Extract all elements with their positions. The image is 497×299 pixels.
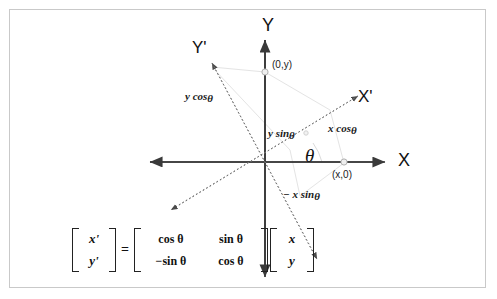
- label-y-cos-theta-text: y cos: [185, 90, 207, 102]
- lhs-y-prime: y': [79, 253, 109, 269]
- figure-page: Y X Y' X' (0,y) (x,0) θ y cosθ y sinθ x …: [0, 0, 497, 299]
- theta-arc: [313, 143, 322, 162]
- lhs-bracket-left: [72, 228, 79, 272]
- construction-line-top: [265, 72, 330, 110]
- rhs-row-2: y: [277, 250, 307, 272]
- rhs-x: x: [277, 231, 307, 247]
- rhs-bracket-right: [307, 228, 314, 272]
- matrix-cell-r1c2: sin θ: [201, 232, 261, 247]
- x-prime-axis-label: X': [358, 88, 373, 105]
- marker-point-0y: [262, 69, 268, 75]
- matrix-cell-r2c2: cos θ: [201, 254, 261, 269]
- label-y-cos-theta: y cosθ: [185, 91, 213, 102]
- theta-angle-label: θ: [305, 146, 314, 165]
- rhs-y: y: [277, 253, 307, 269]
- label-neg-x-sin-theta-symbol: θ: [314, 190, 320, 202]
- construction-line-right: [330, 110, 344, 163]
- matrix-bracket-left: [134, 228, 141, 272]
- marker-projection-xcos: [304, 131, 308, 135]
- matrix-cell-r2c1: −sin θ: [141, 254, 201, 269]
- label-y-cos-theta-symbol: θ: [207, 92, 213, 104]
- label-neg-x-sin-theta-text: − x sin: [283, 188, 314, 200]
- label-neg-x-sin-theta: − x sinθ: [283, 189, 320, 200]
- label-x-cos-theta-symbol: θ: [351, 124, 357, 136]
- lhs-x-prime: x': [79, 231, 109, 247]
- rhs-vector: x y: [277, 228, 307, 272]
- marker-point-x0: [341, 159, 347, 165]
- y-axis-label: Y: [262, 16, 274, 34]
- point-label-0y: (0,y): [272, 60, 292, 70]
- label-y-sin-theta-text: y sin: [268, 127, 289, 139]
- rhs-bracket-left: [270, 228, 277, 272]
- label-y-sin-theta-symbol: θ: [289, 129, 295, 141]
- lhs-bracket-right: [109, 228, 116, 272]
- rotation-matrix-equation: x' y' = cos θ sin θ −sin θ cos θ x: [72, 228, 314, 272]
- matrix-cell-r1c1: cos θ: [141, 232, 201, 247]
- rotation-matrix: cos θ sin θ −sin θ cos θ: [141, 228, 261, 272]
- construction-line-upperleft: [212, 67, 265, 72]
- label-y-sin-theta: y sinθ: [268, 128, 295, 139]
- label-x-cos-theta: x cosθ: [328, 123, 357, 134]
- lhs-row-1: x': [79, 228, 109, 250]
- rhs-row-1: x: [277, 228, 307, 250]
- x-axis-label: X: [398, 151, 410, 169]
- point-label-x0: (x,0): [332, 170, 352, 180]
- y-prime-axis-label: Y': [192, 39, 207, 56]
- equals-sign: =: [116, 242, 134, 258]
- label-x-cos-theta-text: x cos: [328, 122, 351, 134]
- matrix-bracket-right: [261, 228, 268, 272]
- matrix-row-2: −sin θ cos θ: [141, 250, 261, 272]
- lhs-vector: x' y': [79, 228, 109, 272]
- lhs-row-2: y': [79, 250, 109, 272]
- matrix-row-1: cos θ sin θ: [141, 228, 261, 250]
